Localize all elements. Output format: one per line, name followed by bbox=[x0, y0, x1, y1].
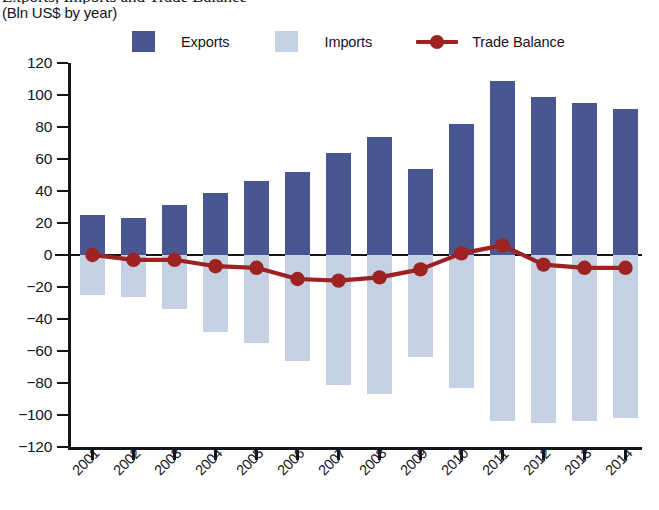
y-axis-tick bbox=[57, 286, 68, 289]
x-axis-label-2003: 2003 bbox=[151, 445, 184, 478]
bar-imports-2004 bbox=[203, 255, 228, 332]
plot-area: 120100806040200−20−40−60−80−100−12020012… bbox=[68, 63, 642, 447]
y-axis-tick bbox=[57, 94, 68, 97]
y-axis-label: 40 bbox=[35, 182, 52, 200]
bar-exports-2002 bbox=[121, 218, 146, 255]
bar-exports-2005 bbox=[244, 181, 269, 255]
bar-exports-2011 bbox=[490, 81, 515, 255]
y-axis-label: −120 bbox=[18, 438, 52, 456]
bar-exports-2007 bbox=[326, 153, 351, 255]
bar-imports-2003 bbox=[162, 255, 187, 309]
y-axis-label: −100 bbox=[18, 406, 52, 424]
x-axis-label-2010: 2010 bbox=[438, 445, 471, 478]
legend-item-imports[interactable]: Imports bbox=[275, 31, 372, 52]
y-axis-label: 120 bbox=[27, 54, 52, 72]
y-axis-label: −60 bbox=[27, 342, 52, 360]
x-axis-label-2004: 2004 bbox=[192, 445, 225, 478]
bar-imports-2012 bbox=[531, 255, 556, 423]
chart-legend: ExportsImportsTrade Balance bbox=[132, 31, 565, 52]
legend-label: Exports bbox=[181, 34, 229, 50]
chart-subtitle: (Bln US$ by year) bbox=[2, 4, 117, 21]
y-axis-label: −40 bbox=[27, 310, 52, 328]
y-axis-tick bbox=[57, 318, 68, 321]
x-axis bbox=[68, 447, 642, 450]
bar-imports-2014 bbox=[613, 255, 638, 418]
legend-item-trade-balance[interactable]: Trade Balance bbox=[416, 31, 564, 52]
x-axis-label-2007: 2007 bbox=[315, 445, 348, 478]
bar-exports-2013 bbox=[572, 103, 597, 255]
y-axis-label: 60 bbox=[35, 150, 52, 168]
zero-baseline bbox=[68, 254, 642, 256]
bar-imports-2005 bbox=[244, 255, 269, 343]
x-axis-label-2008: 2008 bbox=[356, 445, 389, 478]
y-axis-label: −20 bbox=[27, 278, 52, 296]
bar-imports-2010 bbox=[449, 255, 474, 388]
line-marker-icon bbox=[416, 31, 458, 52]
x-axis-label-2011: 2011 bbox=[479, 446, 512, 479]
y-axis-tick bbox=[57, 350, 68, 353]
legend-item-exports[interactable]: Exports bbox=[132, 31, 229, 52]
bar-imports-2013 bbox=[572, 255, 597, 421]
y-axis-tick bbox=[55, 254, 68, 257]
bar-imports-2006 bbox=[285, 255, 310, 361]
y-axis-tick bbox=[57, 158, 68, 161]
bar-imports-2002 bbox=[121, 255, 146, 297]
x-axis-label-2006: 2006 bbox=[274, 445, 307, 478]
trade-chart: Exports, Imports and Trade Balance (Bln … bbox=[0, 0, 659, 510]
x-axis-label-2005: 2005 bbox=[233, 445, 266, 478]
x-axis-label-2002: 2002 bbox=[110, 445, 143, 478]
square-swatch-1 bbox=[275, 31, 298, 52]
bar-exports-2008 bbox=[367, 137, 392, 255]
legend-label: Trade Balance bbox=[472, 34, 564, 50]
square-swatch-0 bbox=[132, 31, 155, 52]
x-axis-label-2009: 2009 bbox=[397, 445, 430, 478]
bar-exports-2001 bbox=[80, 215, 105, 255]
y-axis-tick bbox=[57, 382, 68, 385]
y-axis-tick bbox=[57, 62, 68, 65]
bar-imports-2001 bbox=[80, 255, 105, 295]
y-axis-tick bbox=[57, 126, 68, 129]
bar-exports-2014 bbox=[613, 109, 638, 255]
bar-exports-2004 bbox=[203, 193, 228, 255]
y-axis-label: 80 bbox=[35, 118, 52, 136]
legend-label: Imports bbox=[324, 34, 372, 50]
bar-imports-2008 bbox=[367, 255, 392, 394]
x-axis-label-2013: 2013 bbox=[561, 445, 594, 478]
x-axis-label-2012: 2012 bbox=[520, 445, 553, 478]
y-axis-tick bbox=[57, 222, 68, 225]
bar-exports-2012 bbox=[531, 97, 556, 255]
bar-exports-2010 bbox=[449, 124, 474, 255]
bar-imports-2009 bbox=[408, 255, 433, 357]
x-axis-label-2001: 2001 bbox=[69, 445, 102, 478]
bar-exports-2006 bbox=[285, 172, 310, 255]
bar-exports-2009 bbox=[408, 169, 433, 255]
y-axis-label: 0 bbox=[44, 246, 52, 264]
bar-exports-2003 bbox=[162, 205, 187, 255]
y-axis-label: 100 bbox=[27, 86, 52, 104]
y-axis-label: −80 bbox=[27, 374, 52, 392]
y-axis-label: 20 bbox=[35, 214, 52, 232]
y-axis-tick bbox=[57, 190, 68, 193]
bar-imports-2007 bbox=[326, 255, 351, 385]
x-axis-label-2014: 2014 bbox=[602, 445, 635, 478]
y-axis-tick bbox=[57, 446, 68, 449]
y-axis-tick bbox=[57, 414, 68, 417]
bar-imports-2011 bbox=[490, 255, 515, 421]
